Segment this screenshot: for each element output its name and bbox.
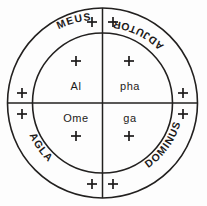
quadrant-label-top-left: Al (71, 80, 82, 92)
quadrant-label-bottom-right: ga (123, 112, 137, 124)
quadrant-label-top-right: pha (120, 80, 140, 92)
cross-icon-inner-bottom-left (71, 131, 81, 141)
cross-icon-inner-top-right (124, 56, 134, 66)
quadrant-label-bottom-left: Ome (63, 112, 89, 124)
cross-icon-inner-bottom-right (124, 131, 134, 141)
cross-icon-outer-right-lower (178, 109, 188, 119)
cross-icon-inner-top-left (71, 56, 81, 66)
cross-icon-outer-bottom-left (87, 179, 97, 189)
cross-icon-outer-left-lower (17, 109, 27, 119)
talisman-diagram: Al pha Ome ga MEUS ADJUTOR DOMINUS AGLA (0, 0, 207, 206)
ring-label-agla: AGLA (28, 130, 57, 164)
ring-label-agla-text: AGLA (28, 130, 57, 164)
cross-icon-outer-left-upper (17, 88, 27, 98)
talisman-canvas: Al pha Ome ga MEUS ADJUTOR DOMINUS AGLA (0, 0, 207, 206)
cross-icon-outer-bottom-right (108, 179, 118, 189)
cross-icon-outer-right-upper (178, 88, 188, 98)
